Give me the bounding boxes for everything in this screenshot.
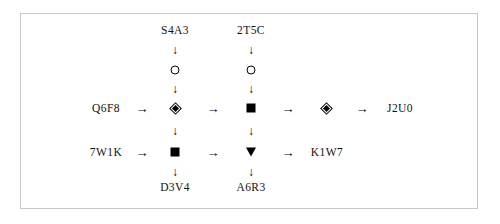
node-triangle-column2-lower[interactable]: [246, 148, 256, 157]
node-square-column2[interactable]: [247, 104, 256, 113]
arrow-down-2t5c-to-circle2: ↓: [248, 44, 254, 56]
label-a6r3: A6R3: [236, 182, 265, 194]
arrow-right-diamond3-to-j2u0: →: [356, 102, 369, 115]
arrow-right-square2-to-diamond3: →: [282, 102, 295, 115]
arrow-down-square2-to-triangle2: ↓: [248, 125, 254, 137]
node-diamond-column3[interactable]: [319, 101, 333, 115]
node-square-column1-lower[interactable]: [171, 148, 180, 157]
label-q6f8: Q6F8: [92, 103, 120, 115]
arrow-right-square1low-to-triangle2: →: [207, 146, 220, 159]
label-7w1k: 7W1K: [90, 147, 122, 159]
arrow-down-s4a3-to-circle1: ↓: [172, 44, 178, 56]
node-circle-column2[interactable]: [247, 66, 256, 75]
node-circle-column1[interactable]: [171, 66, 180, 75]
label-2t5c: 2T5C: [237, 25, 265, 37]
arrow-down-square1low-to-d3v4: ↓: [172, 166, 178, 178]
label-d3v4: D3V4: [160, 182, 190, 194]
label-s4a3: S4A3: [161, 25, 189, 37]
node-diamond-column1[interactable]: [168, 101, 182, 115]
diagram-canvas: S4A3 2T5C ↓ ↓ ↓ ↓ Q6F8 → → → → J2U0 ↓ ↓ …: [0, 0, 500, 224]
arrow-right-q6f8-to-diamond1: →: [136, 102, 149, 115]
arrow-down-circle2-to-square2: ↓: [248, 83, 254, 95]
arrow-down-circle1-to-diamond1: ↓: [172, 83, 178, 95]
arrow-down-triangle2-to-a6r3: ↓: [248, 166, 254, 178]
label-j2u0: J2U0: [387, 103, 413, 115]
arrow-right-triangle2-to-k1w7: →: [282, 146, 295, 159]
arrow-right-7w1k-to-square1low: →: [136, 146, 149, 159]
arrow-down-diamond1-to-square1low: ↓: [172, 125, 178, 137]
arrow-right-diamond1-to-square2: →: [207, 102, 220, 115]
label-k1w7: K1W7: [311, 147, 343, 159]
